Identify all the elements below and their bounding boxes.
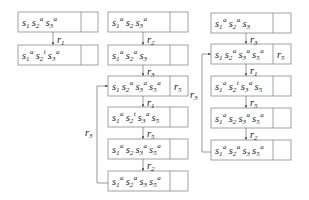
state-transition-diagram: s1 s2a s3a s1a s2t s3a r1s1a s2 s3a s1a … — [0, 0, 309, 200]
state-box: s1a s2t s3a s5 — [211, 76, 291, 96]
state-box: s1a s2t s3a s5 — [108, 107, 188, 127]
transition-label: r2 — [147, 34, 155, 47]
state-label: s1a s2t s3a s5 — [112, 110, 161, 125]
state-box: s1a s2a s3 — [211, 13, 291, 33]
state-box: s1a s2 s3a s5a — [211, 108, 291, 128]
state-box: s1a s2 s3a — [108, 12, 188, 32]
loop-back-arrow — [97, 86, 108, 183]
state-box: s1a s2t s3a — [18, 45, 98, 65]
state-box: s1a s2a s3 — [108, 45, 188, 65]
loop-label: r3 — [85, 127, 93, 140]
loop-label: r3 — [190, 89, 198, 102]
col2-chain: s1a s2 s3a s1a s2a s3 s1 s2a s3a s5a r5s… — [85, 12, 188, 191]
col1-chain: s1 s2a s3a s1a s2t s3a r1 — [18, 12, 98, 65]
transition-label: r1 — [57, 34, 65, 47]
state-box: s1a s2a s3 s5a — [211, 140, 291, 160]
loop-back-arrow — [202, 54, 211, 152]
state-box: s1a s2a s3 s5a — [108, 171, 188, 191]
state-box: s1a s2 s3a s5a — [108, 139, 188, 159]
state-box: s1 s2a s3a s5a r5 — [211, 44, 291, 64]
state-box: s1 s2a s3a — [18, 12, 98, 32]
col3-chain: s1a s2a s3 s1 s2a s3a s5a r5s1a s2t s3a … — [190, 13, 291, 160]
state-label: s1a s2t s3a s5 — [215, 79, 264, 94]
state-box: s1 s2a s3a s5a r5 — [108, 76, 188, 96]
